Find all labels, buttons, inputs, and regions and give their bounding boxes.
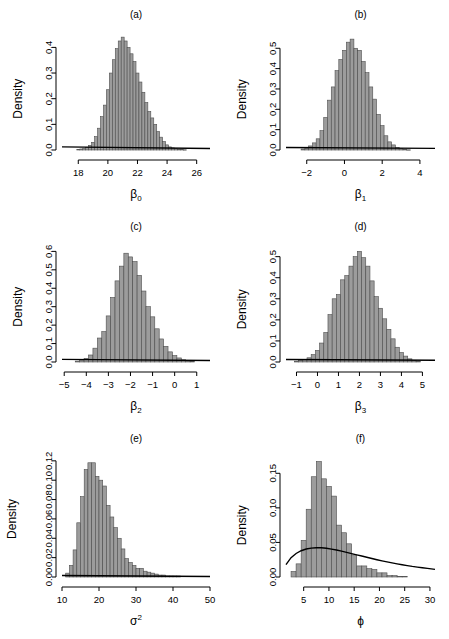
bar <box>299 360 303 362</box>
panel-d: (d)0.00.10.20.30.40.5Density−1012345β3 <box>224 212 449 424</box>
figure-grid: (a)0.00.10.20.30.4Density1820222426β0(b)… <box>0 0 449 639</box>
bar <box>118 538 122 577</box>
bar <box>331 87 335 150</box>
bar <box>77 523 81 577</box>
bar <box>311 477 316 577</box>
bar <box>358 50 362 150</box>
plot-b: (b)0.00.10.20.30.40.5Density−2024β1 <box>224 0 449 212</box>
bar <box>403 149 407 150</box>
panel-c: (c)0.00.10.20.30.40.50.6Density−5−4−3−2−… <box>0 212 224 424</box>
bar <box>354 48 358 150</box>
y-tick-label-a: 0.3 <box>43 66 54 79</box>
bar <box>142 291 146 362</box>
bar <box>111 297 115 362</box>
x-axis-title-d: β3 <box>355 399 367 415</box>
histogram-bars-d <box>294 251 420 362</box>
bar <box>124 253 128 362</box>
x-tick-label-b: 0 <box>342 167 347 178</box>
y-tick-label-d: 0.5 <box>267 250 278 263</box>
bar <box>106 505 110 577</box>
y-tick-label-c: 0.2 <box>43 319 54 332</box>
y-tick-label-f: 0.00 <box>267 568 278 587</box>
x-tick-label-a: 18 <box>73 167 84 178</box>
bar <box>129 562 133 577</box>
bar <box>118 41 121 150</box>
bar <box>343 50 347 150</box>
y-tick-label-e: 0.08 <box>43 490 54 509</box>
bar <box>373 99 377 150</box>
bar <box>336 295 340 362</box>
bar <box>92 142 95 150</box>
bar <box>391 339 395 362</box>
bar <box>357 251 361 362</box>
bar <box>99 480 103 577</box>
bar <box>73 550 77 577</box>
bar <box>397 576 402 577</box>
bar <box>382 573 387 577</box>
bar <box>387 329 391 362</box>
y-tick-label-e: 0.06 <box>43 510 54 529</box>
x-tick-label-e: 20 <box>94 594 105 605</box>
plot-e: (e)0.000.020.040.060.080.100.12Density10… <box>0 424 224 639</box>
bar <box>80 360 84 362</box>
x-tick-label-e: 10 <box>57 594 68 605</box>
x-tick-label-e: 30 <box>131 594 142 605</box>
x-tick-label-a: 20 <box>103 167 114 178</box>
bar <box>296 564 301 577</box>
prior-density-curve-e <box>62 576 210 577</box>
plot-a: (a)0.00.10.20.30.4Density1820222426β0 <box>0 0 224 212</box>
bar <box>75 361 79 362</box>
bar <box>372 569 377 577</box>
x-tick-label-f: 20 <box>374 594 385 605</box>
prior-density-curve-d <box>286 359 435 360</box>
bar <box>148 112 151 150</box>
x-tick-label-d: 1 <box>336 379 341 390</box>
bar <box>374 297 378 362</box>
bar <box>353 257 357 362</box>
bar <box>88 463 92 577</box>
x-tick-label-f: 15 <box>349 594 360 605</box>
bar <box>387 576 392 577</box>
bar <box>115 49 118 150</box>
bar <box>335 71 339 150</box>
y-tick-label-c: 0.6 <box>43 245 54 258</box>
bar <box>92 463 96 577</box>
bar <box>402 576 407 577</box>
bar <box>180 149 183 150</box>
bar <box>154 124 157 150</box>
y-tick-label-c: 0.3 <box>43 300 54 313</box>
bar <box>145 103 148 150</box>
bar <box>294 361 298 362</box>
bar <box>357 566 362 577</box>
x-tick-label-a: 24 <box>162 167 173 178</box>
x-tick-label-c: −4 <box>81 379 92 390</box>
y-tick-label-c: 0.1 <box>43 337 54 350</box>
bar <box>100 117 103 150</box>
bar <box>365 73 369 150</box>
bar <box>95 137 98 150</box>
bar <box>151 118 154 150</box>
y-tick-label-e: 0.00 <box>43 568 54 587</box>
y-axis-title-d: Density <box>235 289 249 329</box>
x-tick-label-d: 5 <box>420 379 425 390</box>
bar <box>327 100 331 150</box>
y-tick-label-e: 0.02 <box>43 548 54 567</box>
y-axis-title-c: Density <box>11 287 25 327</box>
bar <box>132 565 136 577</box>
x-axis-title-a: β0 <box>130 187 142 203</box>
y-tick-label-c: 0.0 <box>43 355 54 368</box>
bar <box>341 280 345 362</box>
y-tick-label-e: 0.12 <box>43 452 54 471</box>
x-tick-label-c: 1 <box>194 379 199 390</box>
x-tick-label-d: 2 <box>357 379 362 390</box>
y-tick-label-f: 0.10 <box>267 499 278 517</box>
bar <box>324 333 328 363</box>
y-tick-label-f: 0.15 <box>267 464 278 483</box>
bar <box>404 356 408 362</box>
panel-title-b: (b) <box>354 9 366 20</box>
y-tick-label-b: 0.0 <box>267 143 278 156</box>
x-tick-label-a: 22 <box>132 167 143 178</box>
bar <box>121 37 124 150</box>
y-axis-title-e: Density <box>5 499 19 539</box>
bar <box>377 573 382 577</box>
